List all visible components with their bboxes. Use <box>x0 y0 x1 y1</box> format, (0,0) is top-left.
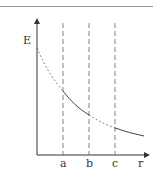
x-axis-label: r <box>138 157 144 170</box>
curve-dotted-b-c <box>89 115 115 128</box>
e-vs-r-diagram: E a b c r <box>0 0 153 171</box>
marker-c-label: c <box>112 157 118 170</box>
curve-solid-a-b <box>63 91 89 115</box>
curve-dotted-0-a <box>37 48 63 91</box>
curve-solid-c-end <box>115 128 144 136</box>
marker-b-label: b <box>86 157 93 170</box>
y-axis-label: E <box>23 34 31 47</box>
marker-a-label: a <box>60 157 67 170</box>
